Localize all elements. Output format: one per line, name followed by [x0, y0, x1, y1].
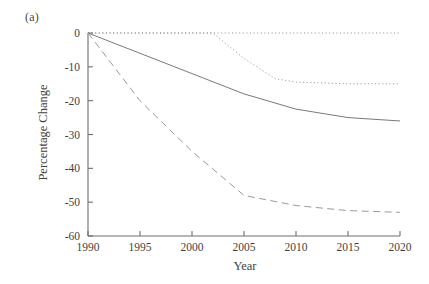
series-mid-reduction [88, 33, 400, 121]
series-low-reduction [88, 33, 400, 84]
figure-panel-a: (a) Percentage Change Year 0-10-20-30-40… [0, 0, 429, 284]
series-high-reduction [88, 33, 400, 212]
plot-area [0, 0, 429, 284]
